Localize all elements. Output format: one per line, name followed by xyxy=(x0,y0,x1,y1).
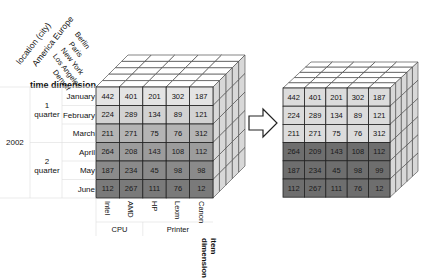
arrow-shape xyxy=(249,109,277,137)
